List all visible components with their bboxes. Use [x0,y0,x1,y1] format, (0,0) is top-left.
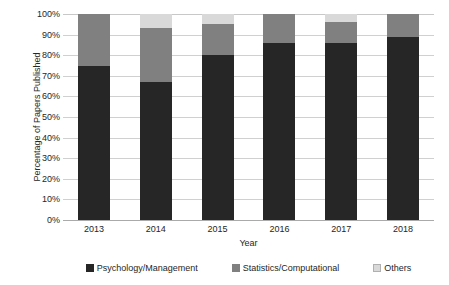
y-axis-tick-label: 70% [18,72,60,81]
bar-segment[interactable] [140,14,172,28]
stacked-bar-chart: Percentage of Papers Published 0%10%20%3… [0,0,449,285]
x-axis-title: Year [63,238,434,248]
bar-segment[interactable] [202,24,234,55]
plot-area [63,14,434,220]
bar-segment[interactable] [263,14,295,43]
gridline [63,220,434,221]
bar-segment[interactable] [202,55,234,220]
bar-group[interactable] [202,14,234,220]
bar-segment[interactable] [325,43,357,220]
legend-item[interactable]: Psychology/Management [86,263,198,273]
bar-group[interactable] [325,14,357,220]
y-axis-tick-label: 10% [18,195,60,204]
bar-segment[interactable] [140,28,172,82]
x-axis-tick-label: 2013 [63,224,125,234]
y-axis-tick-label: 20% [18,175,60,184]
bar-stack [202,14,234,220]
x-axis-tick-label: 2014 [125,224,187,234]
bar-stack [263,14,295,220]
y-axis-tick-label: 60% [18,92,60,101]
bar-segment[interactable] [78,66,110,221]
legend-swatch-icon [86,264,94,272]
bar-group[interactable] [387,14,419,220]
x-axis-tick-label: 2016 [249,224,311,234]
bar-series-container [63,14,434,220]
legend-label: Psychology/Management [97,263,198,273]
bar-stack [140,14,172,220]
legend-label: Statistics/Computational [243,263,340,273]
chart-legend: Psychology/ManagementStatistics/Computat… [63,261,434,275]
bar-stack [387,14,419,220]
bar-stack [78,14,110,220]
y-axis-tick-label: 0% [18,216,60,225]
legend-swatch-icon [232,264,240,272]
y-axis-tick-label: 80% [18,51,60,60]
bar-segment[interactable] [387,14,419,37]
x-axis-tick-label: 2017 [310,224,372,234]
y-axis-tick-label: 50% [18,113,60,122]
bar-segment[interactable] [325,22,357,43]
bar-stack [325,14,357,220]
legend-label: Others [384,263,411,273]
bar-group[interactable] [78,14,110,220]
bar-segment[interactable] [202,14,234,24]
bar-group[interactable] [140,14,172,220]
legend-swatch-icon [373,264,381,272]
y-axis-tick-label: 90% [18,31,60,40]
x-axis-tick-label: 2015 [187,224,249,234]
bar-segment[interactable] [263,43,295,220]
bar-segment[interactable] [387,37,419,220]
legend-item[interactable]: Others [373,263,411,273]
x-axis-tick-label: 2018 [372,224,434,234]
x-axis-tick-labels: 201320142015201620172018 [63,224,434,238]
bar-group[interactable] [263,14,295,220]
bar-segment[interactable] [140,82,172,220]
bar-segment[interactable] [78,14,110,66]
legend-item[interactable]: Statistics/Computational [232,263,340,273]
y-axis-tick-label: 30% [18,154,60,163]
bar-segment[interactable] [325,14,357,22]
y-axis-tick-labels: 0%10%20%30%40%50%60%70%80%90%100% [18,8,60,220]
y-axis-tick-label: 40% [18,134,60,143]
y-axis-tick-label: 100% [18,10,60,19]
